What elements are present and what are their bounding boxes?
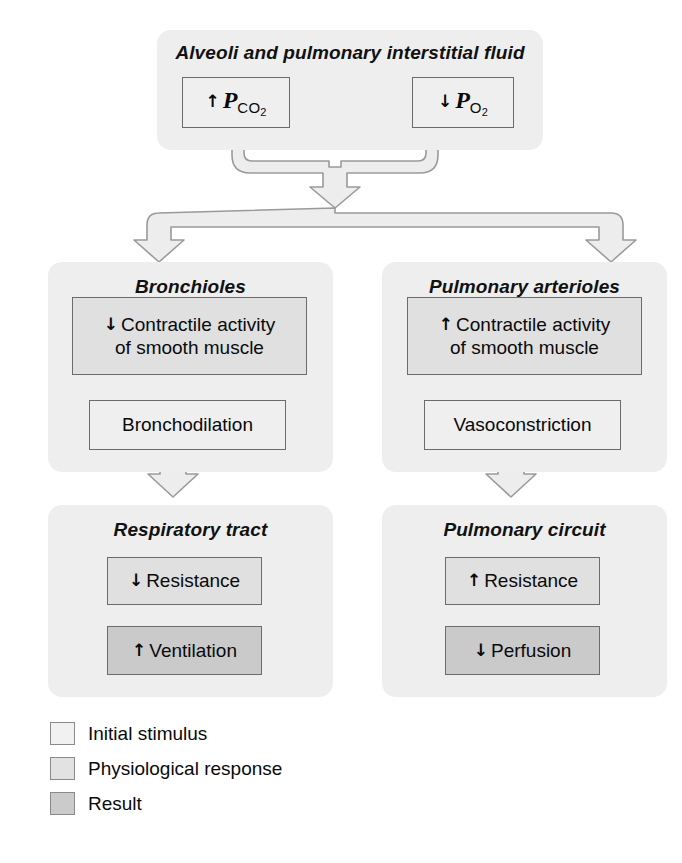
node-art-contractile-line2: of smooth muscle xyxy=(450,337,599,358)
down-arrow-icon: ↓ xyxy=(104,314,118,334)
legend-swatch-result xyxy=(50,792,75,815)
legend-swatch-physiological-response xyxy=(50,757,75,780)
node-perfusion: ↓Perfusion xyxy=(445,626,600,675)
down-arrow-icon: ↓ xyxy=(129,570,143,590)
node-pco2-subscript: CO2 xyxy=(237,99,266,116)
node-resp-resistance: ↓Resistance xyxy=(107,557,262,605)
node-art-contractile-line1: Contractile activity xyxy=(456,314,610,335)
node-perfusion-label: Perfusion xyxy=(491,640,571,661)
legend-label-initial-stimulus: Initial stimulus xyxy=(88,723,207,745)
legend-swatch-initial-stimulus xyxy=(50,722,75,745)
up-arrow-icon: ↑ xyxy=(205,91,219,111)
node-po2-subscript: O2 xyxy=(470,99,488,116)
node-art-contractile: ↑Contractile activity of smooth muscle xyxy=(407,297,642,375)
node-vasoconstriction: Vasoconstriction xyxy=(424,400,621,450)
legend-item-result: Result xyxy=(50,786,282,821)
node-po2: ↓PO2 xyxy=(412,77,514,128)
node-pco2-symbol: P xyxy=(223,87,238,113)
panel-arterioles-title: Pulmonary arterioles xyxy=(382,276,667,298)
node-ventilation: ↑Ventilation xyxy=(107,626,262,675)
node-resp-resistance-label: Resistance xyxy=(146,570,240,591)
node-pco2: ↑PCO2 xyxy=(182,77,290,128)
down-arrow-icon: ↓ xyxy=(474,640,488,660)
node-circ-resistance-label: Resistance xyxy=(484,570,578,591)
node-bronch-contractile: ↓Contractile activity of smooth muscle xyxy=(72,297,307,375)
legend-item-initial-stimulus: Initial stimulus xyxy=(50,716,282,751)
legend: Initial stimulus Physiological response … xyxy=(50,716,282,821)
split-arrow-to-columns xyxy=(134,208,636,262)
node-bronch-contractile-line1: Contractile activity xyxy=(121,314,275,335)
panel-alveoli-title: Alveoli and pulmonary interstitial fluid xyxy=(157,42,543,64)
node-bronchodilation: Bronchodilation xyxy=(89,400,286,450)
node-bronchodilation-label: Bronchodilation xyxy=(122,413,253,436)
legend-label-physiological-response: Physiological response xyxy=(88,758,282,780)
up-arrow-icon: ↑ xyxy=(467,570,481,590)
panel-bronchioles-title: Bronchioles xyxy=(48,276,333,298)
node-circ-resistance: ↑Resistance xyxy=(445,557,600,605)
node-vasoconstriction-label: Vasoconstriction xyxy=(454,413,592,436)
flowchart-diagram: Alveoli and pulmonary interstitial fluid… xyxy=(0,0,682,863)
up-arrow-icon: ↑ xyxy=(439,314,453,334)
panel-pulm-circuit-title: Pulmonary circuit xyxy=(382,519,667,541)
up-arrow-icon: ↑ xyxy=(132,640,146,660)
legend-item-physiological-response: Physiological response xyxy=(50,751,282,786)
down-arrow-icon: ↓ xyxy=(438,91,452,111)
node-po2-symbol: P xyxy=(455,87,470,113)
legend-label-result: Result xyxy=(88,793,142,815)
panel-resp-tract-title: Respiratory tract xyxy=(48,519,333,541)
node-bronch-contractile-line2: of smooth muscle xyxy=(115,337,264,358)
node-ventilation-label: Ventilation xyxy=(149,640,237,661)
